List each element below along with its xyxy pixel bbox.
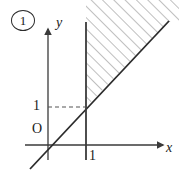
y-axis-label: y bbox=[56, 16, 62, 30]
y-axis-tick-label-1: 1 bbox=[33, 99, 40, 113]
x-axis-tick-label-1: 1 bbox=[89, 149, 96, 163]
origin-label: O bbox=[32, 122, 42, 136]
math-figure: 1 y x O 1 1 bbox=[0, 0, 179, 175]
item-number-badge: 1 bbox=[11, 10, 35, 31]
hatched-region bbox=[86, 0, 179, 107]
x-axis-label: x bbox=[166, 141, 172, 155]
